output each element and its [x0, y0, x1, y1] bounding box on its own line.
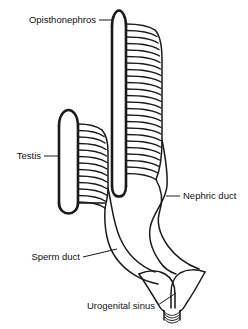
- right-opisthonephros-outer-edge: [155, 30, 162, 180]
- left-opisthonephros-tubules: [78, 124, 107, 208]
- right-opisthonephros-group: [112, 11, 162, 197]
- label-nephric-duct: Nephric duct: [183, 190, 237, 201]
- left-duct-top-cap: [59, 110, 78, 126]
- right-nephric-duct-top-cap: [112, 11, 126, 27]
- nephric-duct-left-wall: [150, 140, 176, 274]
- sperm-duct-lower-wall: [105, 208, 158, 284]
- urogenital-sinus-group: [139, 270, 205, 323]
- sperm-duct-group: [78, 188, 158, 284]
- urogenital-sinus-leader: [158, 293, 176, 305]
- right-nephric-duct-bottom-cap: [112, 186, 126, 197]
- right-opisthonephros-tubules: [126, 24, 161, 180]
- sinus-opening-rim: [164, 311, 180, 323]
- sperm-duct-upper-wall: [108, 188, 155, 272]
- label-urogenital-sinus: Urogenital sinus: [87, 300, 155, 311]
- sinus-right-outer-contour: [180, 272, 205, 311]
- anatomical-diagram: Opisthonephros Testis Nephric duct Sperm…: [0, 0, 248, 329]
- label-opisthonephros: Opisthonephros: [29, 14, 96, 25]
- label-sperm-duct: Sperm duct: [31, 251, 80, 262]
- left-duct-bottom-cap: [59, 203, 78, 214]
- sperm-duct-leader: [83, 249, 117, 257]
- left-opisthonephros-group: [59, 110, 108, 214]
- nephric-duct-group: [150, 140, 199, 274]
- diagram-canvas: Opisthonephros Testis Nephric duct Sperm…: [0, 0, 248, 329]
- label-testis: Testis: [17, 150, 42, 161]
